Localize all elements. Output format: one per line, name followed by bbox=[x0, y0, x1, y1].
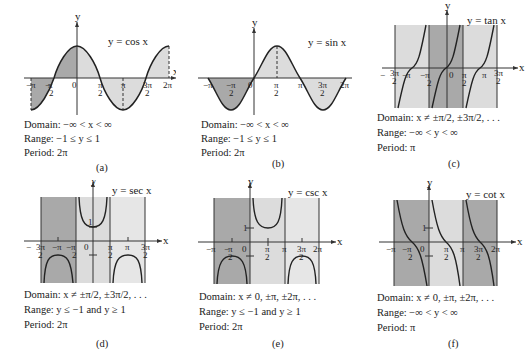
svg-text:2: 2 bbox=[72, 250, 77, 260]
svg-text:2: 2 bbox=[265, 252, 270, 262]
sin-range: Range: −1 ≤ y ≤ 1 bbox=[201, 132, 289, 146]
cot-range: Range: −∞ < y < ∞ bbox=[377, 305, 494, 320]
svg-text:0: 0 bbox=[449, 70, 454, 80]
svg-text:1: 1 bbox=[422, 223, 427, 233]
svg-text:2: 2 bbox=[98, 88, 103, 98]
svg-text:0: 0 bbox=[242, 244, 247, 254]
caption-c: (c) bbox=[448, 158, 460, 169]
svg-text:2: 2 bbox=[108, 250, 113, 260]
cot-period: Period: π bbox=[377, 320, 494, 335]
svg-text:−π: −π bbox=[26, 80, 36, 90]
svg-text:2π: 2π bbox=[491, 244, 501, 254]
tan-graph: y x y = tan x −3π2 π− −π2 0 π2 π 3π2 bbox=[352, 0, 532, 112]
panel-cot: y x y = cot x 1 −π −π2 0 π2 π 3π2 2π Dom… bbox=[352, 180, 532, 360]
cos-period: Period: 2π bbox=[24, 146, 112, 160]
csc-domain: Domain: x ≠ 0, ±π, ±2π, . . . bbox=[199, 289, 316, 304]
svg-text:x: x bbox=[163, 234, 169, 246]
csc-period: Period: 2π bbox=[199, 319, 316, 334]
svg-text:2: 2 bbox=[143, 250, 148, 260]
svg-text:2: 2 bbox=[496, 76, 501, 86]
csc-graph: y x y = csc x 1 −π π−2 0 π2 π 3π2 2π bbox=[176, 180, 352, 288]
svg-text:y = tan x: y = tan x bbox=[467, 14, 506, 26]
cot-domain: Domain: x ≠ 0, ±π, ±2π, . . . bbox=[377, 290, 494, 305]
svg-text:y: y bbox=[91, 180, 97, 186]
svg-text:0: 0 bbox=[84, 242, 89, 252]
svg-text:x: x bbox=[519, 61, 525, 73]
cos-domain: Domain: −∞ < x < ∞ bbox=[24, 118, 112, 132]
sin-info: Domain: −∞ < x < ∞ Range: −1 ≤ y ≤ 1 Per… bbox=[201, 118, 289, 160]
caption-e: (e) bbox=[272, 338, 284, 349]
svg-text:2π: 2π bbox=[313, 244, 323, 254]
svg-text:y: y bbox=[75, 10, 81, 22]
svg-text:2: 2 bbox=[408, 252, 413, 262]
csc-info: Domain: x ≠ 0, ±π, ±2π, . . . Range: y ≤… bbox=[199, 289, 316, 334]
svg-text:2: 2 bbox=[49, 88, 54, 98]
svg-text:x: x bbox=[517, 235, 523, 247]
tan-range: Range: −∞ < y < ∞ bbox=[377, 125, 500, 140]
sin-graph: y y = sin x −π −π2 0 π2 π 3π2 2π bbox=[176, 0, 352, 120]
svg-text:x: x bbox=[337, 235, 343, 247]
sec-range: Range: y ≤ −1 and y ≥ 1 bbox=[24, 302, 147, 317]
svg-text:0: 0 bbox=[248, 80, 253, 90]
svg-text:y: y bbox=[445, 0, 451, 11]
sec-domain: Domain: x ≠ ±π/2, ±3π/2, . . . bbox=[24, 287, 147, 302]
svg-text:2: 2 bbox=[229, 88, 234, 98]
svg-text:π: π bbox=[125, 242, 130, 252]
svg-text:1: 1 bbox=[243, 223, 248, 233]
sin-domain: Domain: −∞ < x < ∞ bbox=[201, 118, 289, 132]
caption-a: (a) bbox=[96, 162, 108, 173]
svg-text:π: π bbox=[482, 70, 487, 80]
svg-text:π: π bbox=[460, 244, 465, 254]
svg-text:2: 2 bbox=[320, 88, 325, 98]
cot-graph: y x y = cot x 1 −π −π2 0 π2 π 3π2 2π bbox=[352, 180, 532, 288]
cot-info: Domain: x ≠ 0, ±π, ±2π, . . . Range: −∞ … bbox=[377, 290, 494, 335]
panel-sin: y y = sin x −π −π2 0 π2 π 3π2 2π Domain:… bbox=[176, 0, 352, 180]
svg-text:−: − bbox=[402, 70, 407, 80]
panel-sec: y x y = sec x 1 −3π2 −π −π2 0 π2 π 3π2 D… bbox=[0, 180, 176, 360]
svg-text:y = sec x: y = sec x bbox=[112, 184, 152, 196]
cos-range: Range: −1 ≤ y ≤ 1 bbox=[24, 132, 112, 146]
panel-cos: x y y = cos x −π π−2 0 π2 π 3π2 2π Domai… bbox=[0, 0, 176, 180]
svg-text:0: 0 bbox=[420, 244, 425, 254]
svg-text:y: y bbox=[248, 180, 254, 187]
csc-range: Range: y ≤ −1 and y ≥ 1 bbox=[199, 304, 316, 319]
svg-text:−: − bbox=[380, 70, 385, 80]
cos-graph: x y y = cos x −π π−2 0 π2 π 3π2 2π bbox=[0, 0, 176, 120]
caption-b: (b) bbox=[272, 158, 284, 169]
svg-text:y = cot x: y = cot x bbox=[466, 188, 505, 200]
svg-text:y = cos x: y = cos x bbox=[108, 35, 149, 47]
svg-text:2: 2 bbox=[427, 78, 432, 88]
svg-text:2: 2 bbox=[38, 250, 43, 260]
svg-text:y: y bbox=[427, 180, 433, 188]
tan-info: Domain: x ≠ ±π/2, ±3π/2, . . . Range: −∞… bbox=[377, 110, 500, 155]
caption-d: (d) bbox=[96, 338, 108, 349]
svg-text:2: 2 bbox=[444, 252, 449, 262]
tan-period: Period: π bbox=[377, 140, 500, 155]
svg-text:2: 2 bbox=[299, 252, 304, 262]
svg-text:π: π bbox=[298, 80, 303, 90]
sec-graph: y x y = sec x 1 −3π2 −π −π2 0 π2 π 3π2 bbox=[0, 180, 176, 286]
svg-text:2: 2 bbox=[228, 252, 233, 262]
svg-text:y: y bbox=[252, 16, 258, 28]
svg-text:y = sin x: y = sin x bbox=[308, 36, 347, 48]
svg-text:2π: 2π bbox=[340, 80, 350, 90]
svg-text:−π: −π bbox=[206, 244, 216, 254]
panel-tan: y x y = tan x −3π2 π− −π2 0 π2 π 3π2 Dom… bbox=[352, 0, 532, 180]
svg-text:π: π bbox=[121, 80, 126, 90]
svg-text:0: 0 bbox=[72, 80, 77, 90]
sec-period: Period: 2π bbox=[24, 317, 147, 332]
svg-text:−π: −π bbox=[52, 242, 62, 252]
panel-csc: y x y = csc x 1 −π π−2 0 π2 π 3π2 2π Dom… bbox=[176, 180, 352, 360]
svg-text:2π: 2π bbox=[163, 80, 173, 90]
svg-text:2: 2 bbox=[392, 76, 397, 86]
svg-text:−: − bbox=[26, 242, 31, 252]
svg-text:2: 2 bbox=[462, 78, 467, 88]
tan-domain: Domain: x ≠ ±π/2, ±3π/2, . . . bbox=[377, 110, 500, 125]
svg-text:1: 1 bbox=[88, 217, 93, 227]
svg-text:−π: −π bbox=[386, 244, 396, 254]
svg-text:2: 2 bbox=[145, 88, 150, 98]
sec-info: Domain: x ≠ ±π/2, ±3π/2, . . . Range: y … bbox=[24, 287, 147, 332]
svg-text:y = csc x: y = csc x bbox=[288, 186, 328, 198]
caption-f: (f) bbox=[448, 338, 459, 349]
svg-text:2: 2 bbox=[274, 88, 279, 98]
